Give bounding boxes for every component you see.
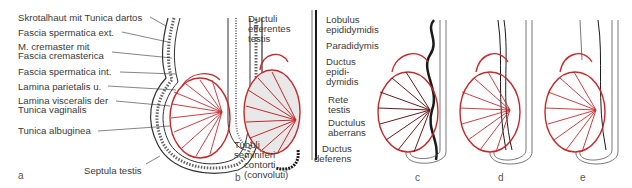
panel-letter-a: a <box>18 170 24 181</box>
label-aberrans: aberrans <box>328 128 366 138</box>
label-fascia-cremasterica: Fascia cremasterica <box>18 51 104 61</box>
label-epididymidis: epididymidis <box>326 25 379 35</box>
label-convoluti: (convoluti) <box>244 170 288 180</box>
label-lamina-parietalis: Lamina parietalis u. <box>18 82 101 92</box>
panel-letter-e: e <box>580 172 586 183</box>
label-tunica-albuginea: Tunica albuginea <box>18 126 91 136</box>
panel-letter-b: b <box>235 172 241 183</box>
label-testis-ductuli: testis <box>248 34 270 44</box>
panel-e-drawing <box>545 20 618 164</box>
panel-c-drawing <box>378 20 446 163</box>
label-dymidis: dymidis <box>326 77 359 87</box>
label-fascia-spermatica-int: Fascia spermatica int. <box>18 67 111 77</box>
label-septula-testis: Septula testis <box>84 166 142 176</box>
label-fascia-spermatica-ext: Fascia spermatica ext. <box>18 28 114 38</box>
label-skrotalhaut: Skrotalhaut mit Tunica dartos <box>18 13 142 23</box>
label-rete-testis: testis <box>328 105 350 115</box>
panel-letter-c: c <box>415 172 420 183</box>
panel-letter-d: d <box>498 172 504 183</box>
label-deferens: deferens <box>314 154 351 164</box>
label-tunica-vaginalis: Tunica vaginalis <box>18 105 86 115</box>
panel-d-drawing <box>460 20 532 164</box>
label-paradidymis: Paradidymis <box>326 41 379 51</box>
